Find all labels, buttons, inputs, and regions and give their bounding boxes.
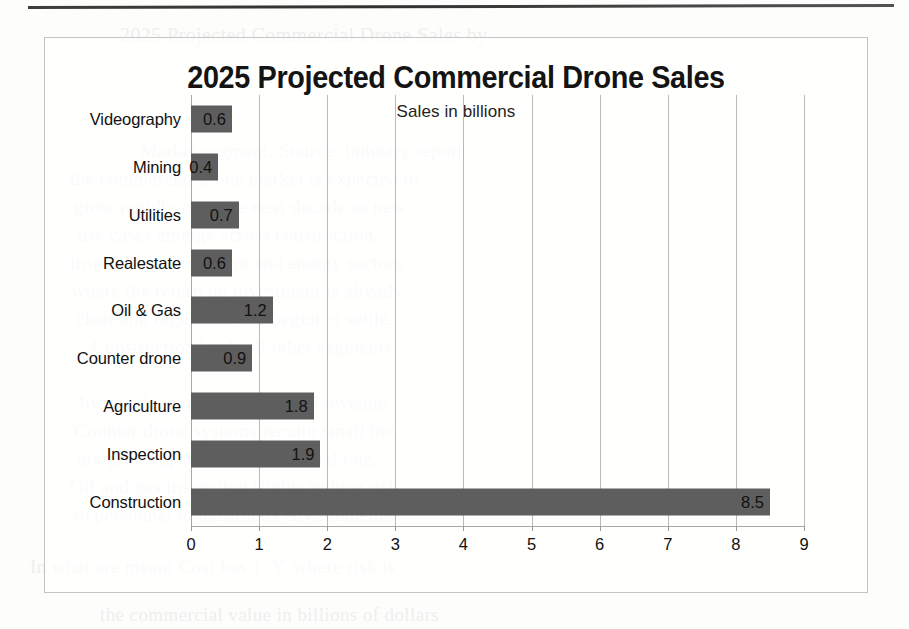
bar: 1.9	[191, 441, 320, 468]
bar: 0.6	[191, 105, 232, 132]
x-tick-mark	[327, 526, 328, 531]
bar-row: Agriculture1.8	[191, 382, 804, 430]
plot-area: Videography0.6Mining0.4Utilities0.7Reale…	[191, 95, 804, 526]
x-axis-line	[191, 526, 804, 527]
x-tick-label: 1	[255, 535, 264, 554]
bar-row: Mining0.4	[191, 143, 804, 191]
x-tick-mark	[532, 526, 533, 531]
category-label: Utilities	[129, 205, 181, 224]
bar-value-label: 1.9	[291, 445, 320, 464]
gridline-9	[804, 95, 805, 526]
bar-value-label: 1.8	[285, 397, 314, 416]
x-tick-label: 3	[391, 535, 400, 554]
x-tick-mark	[463, 526, 464, 531]
x-tick-mark	[804, 526, 805, 531]
page-top-rule	[28, 4, 894, 9]
x-tick-label: 9	[799, 535, 808, 554]
bar-row: Utilities0.7	[191, 191, 804, 239]
bar: 0.7	[191, 201, 239, 228]
x-tick-mark	[259, 526, 260, 531]
x-tick-mark	[736, 526, 737, 531]
bar: 8.5	[191, 489, 770, 516]
x-tick-mark	[395, 526, 396, 531]
x-tick-label: 0	[186, 535, 195, 554]
x-tick-label: 5	[527, 535, 536, 554]
category-label: Counter drone	[77, 349, 181, 368]
chart-container: 2025 Projected Commercial Drone Sales Sa…	[44, 37, 868, 593]
x-tick-label: 7	[663, 535, 672, 554]
bar-value-label: 0.7	[210, 205, 239, 224]
category-label: Inspection	[107, 445, 181, 464]
bar-row: Oil & Gas1.2	[191, 287, 804, 335]
x-tick-label: 6	[595, 535, 604, 554]
category-label: Videography	[90, 109, 181, 128]
bar-row: Counter drone0.9	[191, 334, 804, 382]
bar-row: Realestate0.6	[191, 239, 804, 287]
category-label: Mining	[133, 157, 181, 176]
x-tick-label: 2	[323, 535, 332, 554]
bar: 1.2	[191, 297, 273, 324]
bar: 0.9	[191, 345, 252, 372]
bar-row: Inspection1.9	[191, 430, 804, 478]
category-label: Oil & Gas	[111, 301, 181, 320]
bar-value-label: 0.4	[189, 157, 218, 176]
ghost-text-line: the commercial value in billions of doll…	[100, 604, 439, 626]
x-tick-mark	[668, 526, 669, 531]
bar-value-label: 0.6	[203, 109, 232, 128]
x-tick-mark	[600, 526, 601, 531]
bar-value-label: 0.9	[223, 349, 252, 368]
bar: 0.4	[191, 153, 218, 180]
bar-row: Construction8.5	[191, 478, 804, 526]
bar: 0.6	[191, 249, 232, 276]
category-label: Agriculture	[103, 397, 181, 416]
bar: 1.8	[191, 393, 314, 420]
x-tick-mark	[191, 526, 192, 531]
bar-row: Videography0.6	[191, 95, 804, 143]
category-label: Realestate	[103, 253, 181, 272]
category-label: Construction	[90, 493, 181, 512]
chart-title: 2025 Projected Commercial Drone Sales	[74, 60, 838, 96]
bar-value-label: 8.5	[741, 493, 770, 512]
x-tick-label: 4	[459, 535, 468, 554]
bar-value-label: 0.6	[203, 253, 232, 272]
x-tick-label: 8	[731, 535, 740, 554]
bar-value-label: 1.2	[244, 301, 273, 320]
